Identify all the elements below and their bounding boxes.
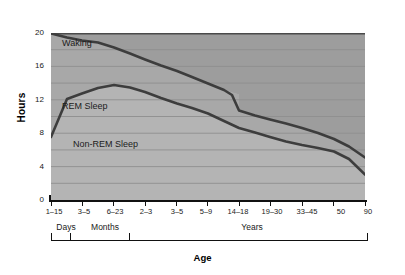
x-tick-1 (82, 201, 83, 206)
x-tick-8 (302, 201, 303, 206)
x-tick-label-10: 90 (364, 208, 372, 216)
x-tick-7 (270, 201, 271, 206)
x-axis-title: Age (0, 252, 405, 263)
x-tick-6 (239, 201, 240, 206)
x-tick-label-6: 14–18 (228, 208, 249, 216)
y-axis-title: Hours (16, 78, 27, 138)
x-tick-label-8: 33–45 (297, 208, 318, 216)
group-bracket-tick-days-end (70, 233, 71, 241)
x-tick-3 (145, 201, 146, 206)
x-tick-label-5: 5–9 (200, 208, 213, 216)
y-tick-label-20: 20 (26, 29, 44, 37)
x-tick-9 (333, 201, 334, 206)
y-tick-label-12: 12 (26, 96, 44, 104)
plot-area (51, 33, 365, 200)
x-tick-4 (176, 201, 177, 206)
y-tick-label-4: 4 (26, 163, 44, 171)
sleep-across-lifespan-chart: Hours 20 16 12 8 4 0 (0, 0, 405, 275)
band-label-non-rem-sleep: Non-REM Sleep (73, 139, 138, 149)
group-bracket-line (51, 240, 368, 241)
x-tick-2 (113, 201, 114, 206)
group-bracket-tick-months-end (129, 233, 130, 241)
y-tick-label-8: 8 (26, 129, 44, 137)
x-tick-label-1: 3–5 (78, 208, 91, 216)
x-tick-label-9: 50 (337, 208, 345, 216)
x-tick-label-0: 1–15 (46, 208, 63, 216)
x-tick-0 (51, 201, 52, 206)
x-group-label-days: Days (56, 222, 75, 232)
band-label-rem-sleep: REM Sleep (62, 101, 108, 111)
group-bracket-tick-end (367, 233, 368, 241)
x-tick-label-2: 6–23 (107, 208, 124, 216)
band-label-waking: Waking (62, 38, 92, 48)
group-bracket-tick-start (51, 233, 52, 241)
chart-svg (51, 33, 365, 200)
x-tick-label-3: 2–3 (140, 208, 153, 216)
y-tick-label-0: 0 (26, 196, 44, 204)
y-tick-label-16: 16 (26, 62, 44, 70)
x-tick-5 (207, 201, 208, 206)
x-tick-label-4: 3–5 (171, 208, 184, 216)
x-tick-label-7: 19–30 (262, 208, 283, 216)
x-group-label-years: Years (241, 222, 262, 232)
x-tick-10 (365, 201, 366, 206)
x-group-label-months: Months (91, 222, 119, 232)
x-axis-line (49, 200, 367, 202)
